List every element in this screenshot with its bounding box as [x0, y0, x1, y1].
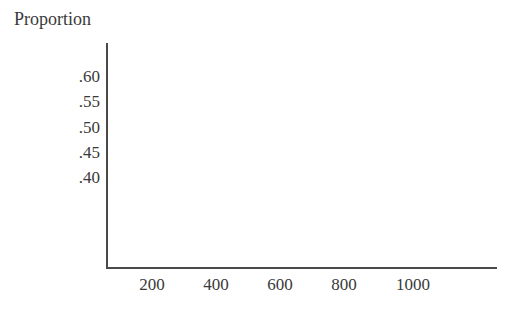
y-axis-title: Proportion — [14, 9, 91, 29]
x-tick-label: 600 — [267, 276, 293, 294]
y-tick-label: .60 — [79, 68, 100, 86]
x-tick-label: 200 — [139, 276, 165, 294]
y-tick-label: .50 — [79, 119, 100, 137]
y-tick-label: .40 — [79, 169, 100, 187]
x-tick-label: 800 — [331, 276, 357, 294]
y-tick-label: .45 — [79, 144, 100, 162]
x-tick-label: 400 — [203, 276, 229, 294]
x-axis-line — [106, 267, 497, 269]
y-axis-line — [106, 43, 108, 269]
y-tick-label: .55 — [79, 93, 100, 111]
x-tick-label: 1000 — [396, 276, 430, 294]
chart-area: Proportion .60 .55 .50 .45 .40 200 400 6… — [0, 0, 523, 310]
